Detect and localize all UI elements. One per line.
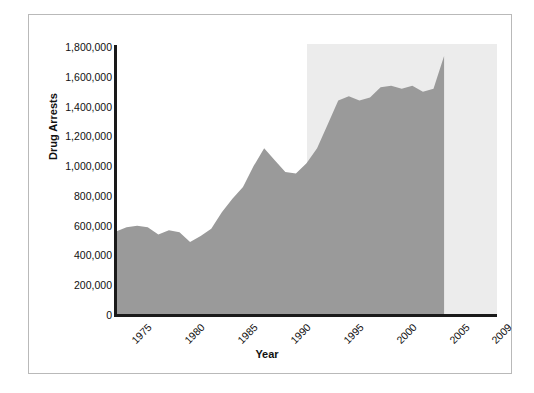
y-tick-label: 1,000,000 [65, 160, 112, 172]
y-tick-label: 400,000 [74, 249, 112, 261]
y-tick-label: 1,800,000 [65, 41, 112, 53]
y-axis-title: Drug Arrests [47, 140, 59, 160]
figure: 0200,000400,000600,000800,0001,000,0001,… [0, 0, 534, 393]
y-axis-line [114, 45, 117, 317]
y-tick-label: 200,000 [74, 279, 112, 291]
y-tick-label: 600,000 [74, 220, 112, 232]
y-axis-ticks: 0200,000400,000600,000800,0001,000,0001,… [0, 0, 112, 393]
x-axis-title: Year [0, 348, 534, 360]
y-tick-label: 1,400,000 [65, 101, 112, 113]
plot-area [116, 47, 497, 315]
y-tick-label: 0 [106, 309, 112, 321]
x-axis-line [114, 314, 497, 317]
area-fill [116, 56, 444, 315]
area-series [116, 47, 497, 315]
y-tick-label: 1,200,000 [65, 130, 112, 142]
y-tick-label: 800,000 [74, 190, 112, 202]
y-tick-label: 1,600,000 [65, 71, 112, 83]
